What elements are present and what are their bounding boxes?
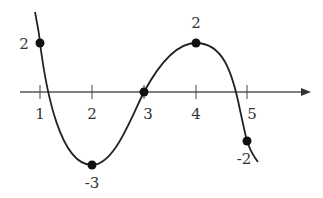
point-5 (243, 137, 252, 146)
point-3 (140, 88, 149, 97)
tick-label-3: 3 (143, 105, 153, 123)
function-graph: 1 2 3 4 5 2 -3 2 -2 (0, 0, 323, 198)
point-label-5: -2 (237, 150, 252, 168)
point-label-2: -3 (85, 174, 100, 192)
point-2 (88, 161, 97, 170)
data-points (36, 39, 252, 170)
tick-label-1: 1 (35, 105, 45, 123)
x-axis-arrow-icon (301, 88, 311, 96)
point-4 (192, 39, 201, 48)
point-label-4: 2 (191, 14, 201, 32)
point-label-1: 2 (19, 35, 29, 53)
tick-label-2: 2 (87, 105, 97, 123)
point-1 (36, 39, 45, 48)
tick-label-4: 4 (191, 105, 201, 123)
tick-label-5: 5 (247, 105, 257, 123)
